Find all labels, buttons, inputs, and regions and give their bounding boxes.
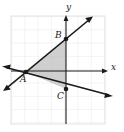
falling-line-arrowhead-right: [104, 93, 113, 98]
point-C-marker: [64, 87, 69, 92]
point-label-B: B: [55, 31, 62, 40]
y-axis-label: y: [66, 3, 71, 12]
x-axis-label: x: [111, 63, 116, 72]
point-B-marker: [64, 37, 69, 42]
point-label-A: A: [20, 75, 27, 84]
figure-canvas: [0, 0, 124, 132]
point-label-C: C: [57, 92, 64, 101]
falling-line-arrowhead-left: [2, 64, 11, 69]
coordinate-plane-figure: A B C x y: [0, 0, 124, 132]
